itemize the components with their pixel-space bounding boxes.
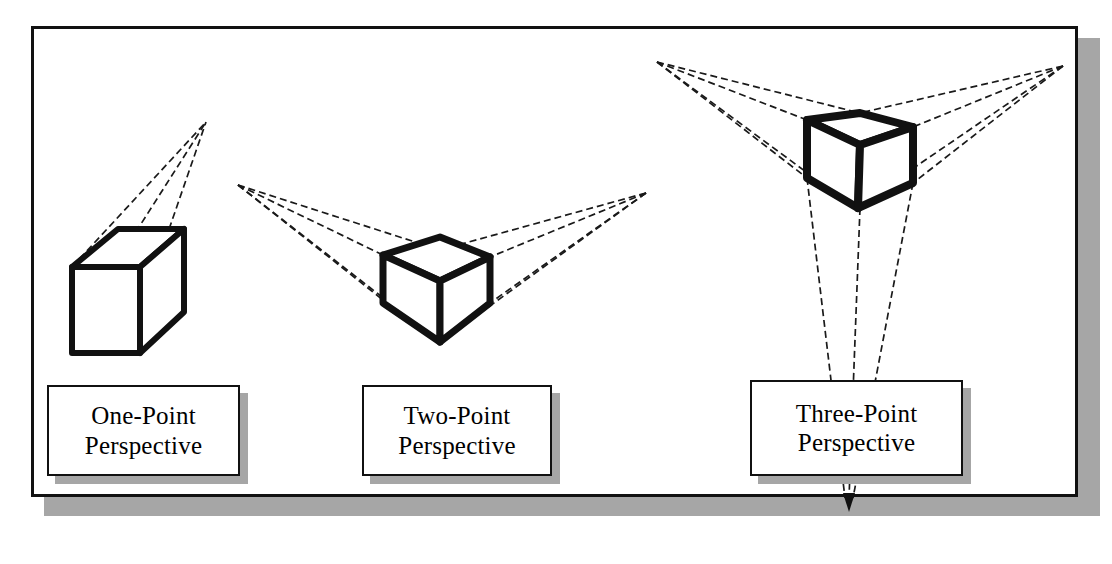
caption-line-2: Perspective (798, 428, 915, 458)
cube-right-face (858, 127, 913, 208)
caption-line-1: One-Point (91, 401, 196, 431)
cube-front-face (72, 267, 140, 353)
caption-line-2: Perspective (398, 431, 515, 461)
caption-line-1: Three-Point (796, 399, 918, 429)
caption-line-2: Perspective (85, 431, 202, 461)
diagram-stage: One-Point Perspective Two-Point Perspect… (0, 0, 1112, 564)
construction-line (238, 185, 383, 255)
two-point-cube (383, 237, 490, 342)
construction-line (238, 185, 440, 250)
construction-line (490, 193, 646, 257)
one-point-perspective-group (72, 122, 206, 354)
construction-line (657, 62, 860, 113)
bottom-vanishing-point-arrow (843, 493, 855, 512)
two-point-perspective-group (238, 185, 646, 342)
caption-three-point: Three-Point Perspective (750, 380, 963, 476)
caption-two-point: Two-Point Perspective (362, 385, 552, 476)
caption-one-point: One-Point Perspective (47, 385, 240, 476)
construction-line (657, 62, 807, 120)
caption-line-1: Two-Point (403, 401, 510, 431)
three-point-cube (807, 113, 913, 208)
construction-line (440, 193, 646, 250)
